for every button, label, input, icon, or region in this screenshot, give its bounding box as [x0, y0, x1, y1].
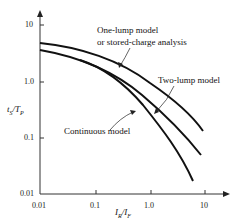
- y-tick-label-1: 1.0: [24, 77, 34, 86]
- one-lump-label: One-lump model: [97, 25, 158, 35]
- one-lump-label-line2: or stored-charge analysis: [97, 37, 187, 47]
- x-axis-arrow-icon: [223, 191, 230, 197]
- x-label-sub-f: F: [127, 213, 131, 219]
- y-tick-label-0.01: 0.01: [20, 189, 34, 198]
- y-axis-label: tS/TP: [7, 104, 24, 118]
- x-tick-label-1: 1.0: [144, 201, 154, 210]
- x-tick-label-0.1: 0.1: [90, 201, 100, 210]
- one-lump-leader: [120, 48, 130, 66]
- continuous-model-label: Continuous model: [64, 126, 130, 136]
- two-lump-label: Two-lump model: [158, 75, 220, 85]
- y-label-sub-p: P: [20, 110, 24, 116]
- x-axis-label: IR/IF: [115, 207, 131, 221]
- x-tick-label-0.01: 0.01: [32, 201, 46, 210]
- x-tick-label-10: 10: [200, 201, 208, 210]
- y-axis-arrow-icon: [37, 10, 43, 17]
- y-tick-label-10: 10: [25, 20, 33, 29]
- y-tick-label-0.1: 0.1: [24, 133, 34, 142]
- continuous-arrow-icon: [130, 110, 136, 115]
